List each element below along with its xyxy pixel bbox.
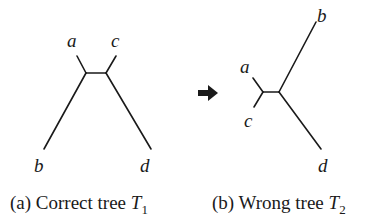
t1-edge-d xyxy=(106,73,151,149)
t2-caption: (b) Wrong tree T2 xyxy=(212,192,346,217)
t2-leaf-d: d xyxy=(318,155,328,176)
t2-caption-subscript: 2 xyxy=(339,202,346,217)
t2-edge-b xyxy=(279,22,316,92)
t1-edge-a xyxy=(77,56,86,73)
t2-edge-a xyxy=(253,78,263,92)
t2-edge-c xyxy=(254,92,263,107)
t1-leaf-d: d xyxy=(140,155,150,176)
t1-leaf-a: a xyxy=(67,30,77,51)
t1-caption: (a) Correct tree T1 xyxy=(10,192,148,217)
t2-edge-d xyxy=(279,92,321,149)
t1-leaf-b: b xyxy=(34,155,44,176)
t2-leaf-c: c xyxy=(244,110,253,131)
right-arrow-icon xyxy=(198,85,218,101)
t2-caption-prefix: (b) Wrong tree xyxy=(212,192,329,214)
tree-comparison-diagram: a c b d (a) Correct tree T1 b a c d (b) … xyxy=(0,0,377,221)
t1-caption-prefix: (a) Correct tree xyxy=(10,192,131,214)
t1-leaf-c: c xyxy=(111,30,120,51)
t2-leaf-b: b xyxy=(317,5,327,26)
t1-caption-subscript: 1 xyxy=(141,202,148,217)
tree-t2: b a c d (b) Wrong tree T2 xyxy=(212,5,346,217)
t2-leaf-a: a xyxy=(240,56,250,77)
t1-edge-c xyxy=(106,56,116,73)
t1-edge-b xyxy=(44,73,86,149)
tree-t1: a c b d (a) Correct tree T1 xyxy=(10,30,151,217)
